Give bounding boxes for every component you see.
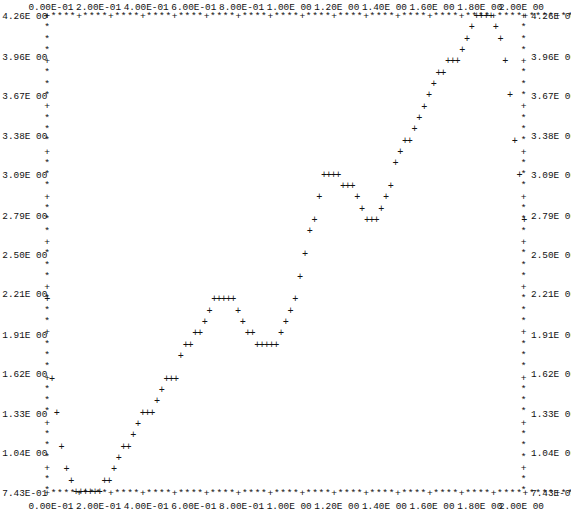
y-axis-tick-label: 4.26E 00 bbox=[2, 11, 47, 22]
data-point-marker: + bbox=[197, 329, 203, 339]
data-point-marker: + bbox=[54, 409, 60, 419]
data-point-marker: + bbox=[469, 23, 475, 33]
bottom-axis-border: +****+****+****+****+****+****+****+****… bbox=[44, 488, 571, 499]
data-point-marker: + bbox=[235, 307, 241, 317]
data-point-marker: + bbox=[335, 171, 341, 181]
x-axis-tick-label: 1.60E 00 bbox=[410, 501, 455, 512]
data-point-marker: + bbox=[388, 182, 394, 192]
data-point-marker: + bbox=[459, 46, 465, 56]
data-point-marker: + bbox=[202, 318, 208, 328]
y-axis-tick-label: 3.38E 00 bbox=[2, 131, 47, 142]
data-point-marker: + bbox=[154, 397, 160, 407]
data-point-marker: + bbox=[497, 35, 503, 45]
data-point-marker: + bbox=[502, 57, 508, 67]
data-point-marker: + bbox=[383, 193, 389, 203]
data-point-marker: + bbox=[59, 443, 65, 453]
data-point-marker: + bbox=[440, 69, 446, 79]
x-axis-tick-label: 2.00E 00 bbox=[499, 501, 544, 512]
data-point-marker: + bbox=[178, 352, 184, 362]
y-axis-tick-label: 7.43E-01 bbox=[2, 488, 47, 499]
y-axis-tick-label: 1.91E 00 bbox=[531, 330, 571, 341]
data-point-marker: + bbox=[407, 137, 413, 147]
y-axis-tick-label: 3.38E 00 bbox=[531, 131, 571, 142]
y-axis-tick-label: 3.09E 00 bbox=[2, 170, 47, 181]
data-point-marker: + bbox=[278, 329, 284, 339]
data-point-marker: + bbox=[307, 227, 313, 237]
data-point-marker: + bbox=[493, 23, 499, 33]
ascii-plot-canvas: 0.00E-012.00E-014.00E-016.00E-018.00E-01… bbox=[0, 0, 571, 512]
data-point-marker: + bbox=[240, 318, 246, 328]
data-point-marker: + bbox=[249, 329, 255, 339]
y-axis-tick-label: 3.09E 00 bbox=[531, 170, 571, 181]
data-point-marker: + bbox=[373, 216, 379, 226]
y-axis-tick-label: 3.67E 00 bbox=[2, 91, 47, 102]
data-point-marker: + bbox=[283, 318, 289, 328]
y-axis-tick-label: 2.50E 00 bbox=[2, 250, 47, 261]
data-point-marker: + bbox=[206, 307, 212, 317]
data-point-marker: + bbox=[316, 193, 322, 203]
data-point-marker: + bbox=[378, 205, 384, 215]
data-point-marker: + bbox=[488, 12, 494, 22]
y-axis-tick-label: 1.04E 00 bbox=[2, 448, 47, 459]
x-axis-tick-label: 6.00E-01 bbox=[171, 501, 216, 512]
x-axis-tick-label: 0.00E-01 bbox=[28, 501, 73, 512]
data-point-marker: + bbox=[359, 205, 365, 215]
data-point-marker: + bbox=[230, 295, 236, 305]
x-axis-tick-label: 1.20E 00 bbox=[314, 501, 359, 512]
y-axis-tick-label: 1.62E 00 bbox=[531, 369, 571, 380]
data-point-marker: + bbox=[130, 431, 136, 441]
data-point-marker: + bbox=[111, 465, 117, 475]
data-point-marker: + bbox=[412, 125, 418, 135]
y-axis-tick-label: 3.67E 00 bbox=[531, 91, 571, 102]
data-point-marker: + bbox=[455, 57, 461, 67]
data-point-marker: + bbox=[135, 420, 141, 430]
y-axis-tick-label: 2.21E 00 bbox=[2, 289, 47, 300]
y-axis-tick-label: 4.26E 00 bbox=[531, 11, 571, 22]
y-axis-tick-label: 1.04E 00 bbox=[531, 448, 571, 459]
y-axis-tick-label: 2.79E 00 bbox=[2, 211, 47, 222]
x-axis-tick-label: 1.00E 00 bbox=[267, 501, 312, 512]
y-axis-tick-label: 2.50E 00 bbox=[531, 250, 571, 261]
data-point-marker: + bbox=[149, 409, 155, 419]
data-point-marker: + bbox=[393, 159, 399, 169]
data-point-marker: + bbox=[187, 341, 193, 351]
y-axis-tick-label: 2.21E 00 bbox=[531, 289, 571, 300]
data-point-marker: + bbox=[273, 341, 279, 351]
y-axis-tick-label: 1.33E 00 bbox=[531, 409, 571, 420]
data-point-marker: + bbox=[507, 91, 513, 101]
y-axis-tick-label: 1.91E 00 bbox=[2, 330, 47, 341]
x-axis-tick-label: 2.00E-01 bbox=[76, 501, 121, 512]
data-point-marker: + bbox=[311, 216, 317, 226]
x-axis-tick-label: 1.80E 00 bbox=[457, 501, 502, 512]
x-axis-tick-label: 1.40E 00 bbox=[362, 501, 407, 512]
data-point-marker: + bbox=[517, 171, 523, 181]
data-point-marker: + bbox=[302, 250, 308, 260]
data-point-marker: + bbox=[68, 477, 74, 487]
data-point-marker: + bbox=[431, 80, 437, 90]
data-point-marker: + bbox=[159, 386, 165, 396]
data-point-marker: + bbox=[426, 91, 432, 101]
y-axis-tick-label: 3.96E 00 bbox=[531, 52, 571, 63]
x-axis-tick-label: 8.00E-01 bbox=[219, 501, 264, 512]
data-point-marker: + bbox=[49, 375, 55, 385]
data-point-marker: + bbox=[63, 465, 69, 475]
data-point-marker: + bbox=[416, 114, 422, 124]
data-point-marker: + bbox=[421, 103, 427, 113]
y-axis-tick-label: 1.62E 00 bbox=[2, 369, 47, 380]
data-point-marker: + bbox=[288, 307, 294, 317]
data-point-marker: + bbox=[397, 148, 403, 158]
data-point-marker: + bbox=[512, 137, 518, 147]
x-axis-tick-label: 4.00E-01 bbox=[124, 501, 169, 512]
y-axis-right-border: + * * * + * * * + * * * + * * * + * * * … bbox=[521, 11, 527, 497]
data-point-marker: + bbox=[173, 375, 179, 385]
y-axis-tick-label: 1.33E 00 bbox=[2, 409, 47, 420]
data-point-marker: + bbox=[521, 216, 527, 226]
data-point-marker: + bbox=[116, 454, 122, 464]
data-point-marker: + bbox=[125, 443, 131, 453]
data-point-marker: + bbox=[106, 477, 112, 487]
data-point-marker: + bbox=[464, 35, 470, 45]
y-axis-tick-label: 3.96E 00 bbox=[2, 52, 47, 63]
y-axis-tick-label: 2.79E 00 bbox=[531, 211, 571, 222]
data-point-marker: + bbox=[292, 295, 298, 305]
data-point-marker: + bbox=[297, 273, 303, 283]
